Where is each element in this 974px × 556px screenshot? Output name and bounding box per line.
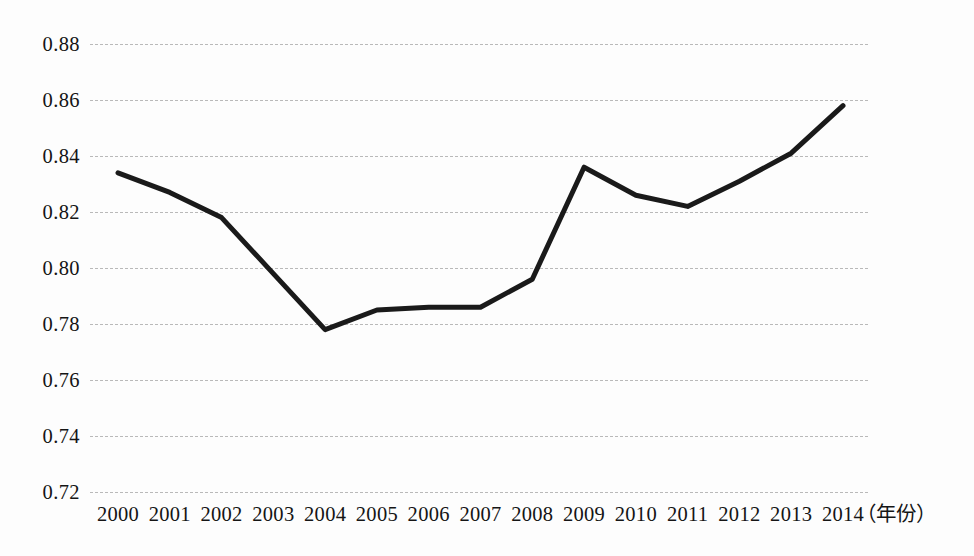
- y-axis-tick-label: 0.74: [0, 426, 80, 447]
- y-axis-labels: 0.880.860.840.820.800.780.760.740.72: [0, 0, 80, 556]
- y-axis-tick-label: 0.76: [0, 370, 80, 391]
- line-chart: 0.880.860.840.820.800.780.760.740.72 （年份…: [0, 0, 974, 556]
- x-axis-tick-label: 2009: [563, 503, 605, 527]
- y-axis-tick-label: 0.82: [0, 202, 80, 223]
- x-axis-labels: （年份） 20002001200220032004200520062007200…: [90, 503, 974, 537]
- y-axis-tick-label: 0.88: [0, 34, 80, 55]
- x-axis-tick-label: 2006: [408, 503, 450, 527]
- x-axis-tick-label: 2013: [770, 503, 812, 527]
- x-axis-tick-label: 2000: [97, 503, 139, 527]
- x-axis-tick-label: 2004: [304, 503, 346, 527]
- x-axis-tick-label: 2012: [718, 503, 760, 527]
- y-axis-tick-label: 0.80: [0, 258, 80, 279]
- x-axis-tick-label: 2010: [615, 503, 657, 527]
- x-axis-tick-label: 2014: [822, 503, 864, 527]
- series-polyline: [118, 106, 843, 330]
- x-axis-tick-label: 2011: [667, 503, 708, 527]
- x-axis-tick-label: 2005: [356, 503, 398, 527]
- data-series-line: [90, 44, 868, 492]
- gridline: [90, 492, 868, 493]
- y-axis-tick-label: 0.84: [0, 146, 80, 167]
- y-axis-tick-label: 0.72: [0, 482, 80, 503]
- x-axis-tick-label: 2003: [252, 503, 294, 527]
- x-axis-tick-label: 2001: [149, 503, 191, 527]
- plot-area: [90, 44, 868, 492]
- x-axis-tick-label: 2002: [200, 503, 242, 527]
- x-axis-tick-label: 2007: [459, 503, 501, 527]
- y-axis-tick-label: 0.86: [0, 90, 80, 111]
- y-axis-tick-label: 0.78: [0, 314, 80, 335]
- x-axis-tick-label: 2008: [511, 503, 553, 527]
- x-axis-title: （年份）: [856, 503, 936, 527]
